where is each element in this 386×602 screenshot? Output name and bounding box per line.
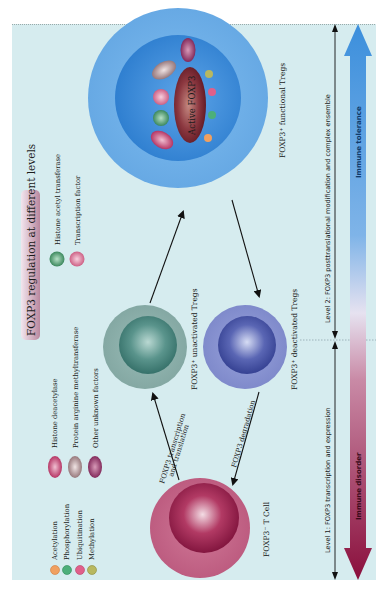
ubiquitination-icon (76, 566, 85, 575)
immune-disorder-label: Immune disorder (355, 452, 363, 520)
hdac-icon (48, 456, 62, 478)
legend-label: Histone deacetylase (51, 378, 59, 448)
others-factor-icon (181, 38, 196, 62)
t-cell-label: FOXP3⁻ T Cell (262, 501, 271, 557)
unactivated-tregs-label: FOXP3⁺ unactivated Tregs (190, 288, 199, 390)
legend-label: Other unknown factors (92, 368, 100, 448)
active-foxp3-label: Active FOXP3 (187, 76, 197, 136)
legend-item-acetylation: Acetylation (51, 520, 60, 574)
ubiquitination-mod-icon (208, 88, 216, 96)
legend-label: Acetylation (51, 520, 59, 561)
phosphorylation-icon (63, 566, 72, 575)
phosphorylation-mod-icon (208, 111, 216, 119)
tf-icon (70, 252, 85, 267)
foxp3-diagram: FOXP3 regulation at different levels Ace… (0, 0, 386, 602)
legend-label: Histone acetyl transferase (54, 154, 62, 245)
tf-factor-icon (153, 89, 169, 105)
diagram-title: FOXP3 regulation at different levels (25, 144, 37, 336)
legend-label: Phosphorylation (63, 503, 71, 560)
legend-label: Ubiquitination (76, 510, 84, 560)
prmt-icon (68, 456, 82, 478)
hat-factor-icon (153, 110, 169, 126)
legend-label: Protein arginine methyltransferase (72, 327, 80, 448)
deactivated-tregs-label: FOXP3⁺ deactivated Tregs (290, 289, 299, 390)
legend-label: Methylation (88, 518, 96, 560)
others-icon (88, 456, 102, 478)
functional-tregs-label: FOXP3⁺ functional Tregs (278, 63, 287, 158)
legend-label: Transcription factor (74, 175, 82, 245)
methylation-icon (88, 566, 97, 575)
immune-tolerance-label: Immune tolerance (355, 106, 363, 178)
level1-label: Level 1: FOXP3 transcription and express… (324, 408, 332, 553)
acetylation-mod-icon (204, 134, 212, 142)
hat-icon (50, 252, 65, 267)
methylation-mod-icon (205, 70, 213, 78)
level2-label: Level 2: FOXP3 posttranslational modific… (324, 94, 332, 323)
acetylation-icon (51, 566, 60, 575)
